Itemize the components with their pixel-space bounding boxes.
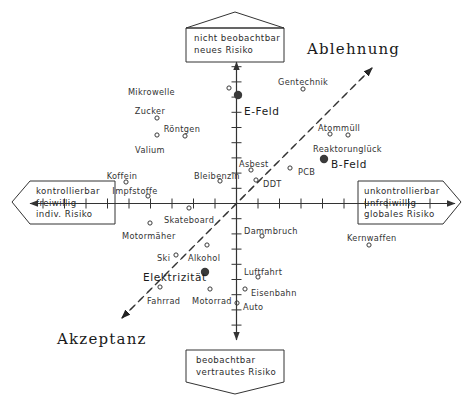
data-point-marker — [155, 116, 159, 120]
data-point-label: Elektrizität — [143, 272, 207, 283]
data-point-label: Gentechnik — [278, 78, 328, 86]
bottom-box-line1: beobachtbar — [196, 355, 276, 367]
data-point-label: Motormäher — [122, 232, 176, 240]
data-point-marker — [227, 86, 231, 90]
data-point-marker — [183, 134, 187, 138]
left-box-line3: indiv. Risiko — [36, 209, 100, 221]
data-point-marker — [301, 87, 305, 91]
y-axis — [232, 62, 242, 340]
data-point-label: Auto — [243, 303, 263, 311]
data-point-label: Motorrad — [192, 297, 232, 305]
right-box-line1: unkontrollierbar — [364, 186, 440, 198]
data-point-label: Dammbruch — [244, 227, 298, 235]
data-point-label: Eisenbahn — [251, 289, 297, 297]
risk-perception-diagram: nicht beobachtbar neues Risiko beobachtb… — [0, 0, 471, 397]
data-point-marker — [174, 253, 178, 257]
data-point-label: Atommüll — [318, 124, 360, 132]
data-point-label: Fahrrad — [147, 297, 180, 305]
bottom-box-label: beobachtbar vertrautes Risiko — [196, 355, 276, 378]
top-box-line2: neues Risiko — [194, 45, 280, 57]
left-box-label: kontrollierbar freiwillig indiv. Risiko — [36, 186, 100, 221]
data-point-label: B-Feld — [331, 159, 367, 170]
data-point-label: Zucker — [135, 107, 165, 115]
data-point-marker — [288, 166, 292, 170]
data-point-label: Luftfahrt — [244, 268, 282, 276]
diagonal-label-akzeptanz: Akzeptanz — [57, 330, 147, 348]
data-point-label: Koffein — [107, 172, 138, 180]
data-point-label: Bleibenzin — [194, 172, 240, 180]
data-point-marker — [208, 287, 212, 291]
data-point-label: Mikrowelle — [128, 88, 175, 96]
data-point-marker — [187, 206, 191, 210]
data-point-marker — [158, 285, 162, 289]
data-point-marker — [205, 243, 209, 247]
left-box-line1: kontrollierbar — [36, 186, 100, 198]
data-point-marker — [155, 133, 159, 137]
data-point-marker — [346, 133, 350, 137]
bottom-box-line2: vertrautes Risiko — [196, 367, 276, 379]
data-point-marker — [234, 91, 242, 99]
data-point-label: Röntgen — [164, 125, 201, 133]
data-point-marker — [243, 287, 247, 291]
data-point-label: Kernwaffen — [347, 234, 397, 242]
data-point-label: Skateboard — [164, 216, 214, 224]
data-point-label: Valium — [135, 146, 165, 154]
top-box-line1: nicht beobachtbar — [194, 33, 280, 45]
right-box-label: unkontrollierbar unfreiwillig globales R… — [364, 186, 440, 221]
left-box-line2: freiwillig — [36, 198, 100, 210]
data-point-label: Alkohol — [188, 254, 220, 262]
data-point-label: Reaktorunglück — [313, 145, 382, 153]
data-point-label: Asbest — [239, 160, 269, 168]
right-box-line3: globales Risiko — [364, 209, 440, 221]
data-point-marker — [254, 178, 258, 182]
data-point-label: Impfstoffe — [112, 187, 157, 195]
data-point-label: E-Feld — [244, 106, 280, 117]
data-point-label: PCB — [298, 168, 315, 176]
top-box-label: nicht beobachtbar neues Risiko — [194, 33, 280, 56]
data-point-label: DDT — [263, 180, 282, 188]
data-point-marker — [320, 155, 328, 163]
data-point-marker — [367, 243, 371, 247]
data-point-label: Ski — [157, 254, 170, 262]
diagonal-label-ablehnung: Ablehnung — [307, 40, 400, 58]
data-point-marker — [148, 221, 152, 225]
right-box-line2: unfreiwillig — [364, 198, 440, 210]
